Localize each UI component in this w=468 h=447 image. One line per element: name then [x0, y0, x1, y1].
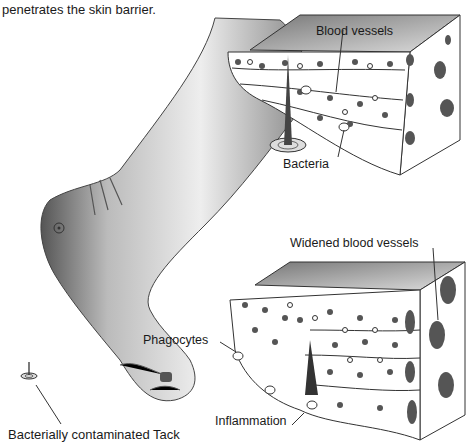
caption-text: penetrates the skin barrier. — [2, 2, 156, 17]
contaminated-tack-icon — [21, 362, 61, 424]
label-blood-vessels: Blood vessels — [316, 24, 393, 38]
lower-tissue-block — [220, 248, 465, 440]
label-widened-blood-vessels: Widened blood vessels — [290, 236, 419, 250]
label-contaminated-tack: Bacterially contaminated Tack — [8, 427, 180, 442]
foot-infection-illustration — [0, 0, 468, 447]
label-bacteria: Bacteria — [283, 157, 329, 171]
bacteria-icon — [301, 86, 311, 94]
label-phagocytes: Phagocytes — [143, 333, 208, 347]
label-inflammation: Inflammation — [215, 414, 287, 428]
phagocyte-icon — [233, 352, 243, 360]
